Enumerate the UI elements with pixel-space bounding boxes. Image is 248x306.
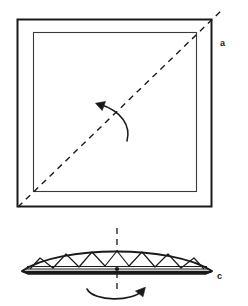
rotation-arrow-a <box>96 102 128 142</box>
panel-a-label: a <box>220 38 226 48</box>
diagonal-fold-line <box>18 9 223 207</box>
origami-diagram-svg: a <box>0 0 248 306</box>
center-pivot-dot <box>115 267 119 271</box>
panel-a-group: a <box>18 9 227 207</box>
flip-arrow-c <box>87 287 145 299</box>
figure-root: a <box>0 0 248 306</box>
panel-c-label: c <box>217 271 222 281</box>
panel-c-group: c <box>22 228 222 299</box>
